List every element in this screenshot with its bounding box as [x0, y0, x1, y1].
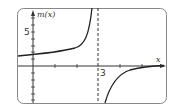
y-axis-label: m(x) — [37, 10, 55, 19]
curve-right-branch — [105, 66, 164, 104]
x-axis-label: x — [156, 55, 161, 64]
x-axis: x 3 — [18, 55, 166, 78]
graph: x 3 m(x) 5 — [0, 0, 180, 111]
x-tick-label-3: 3 — [100, 68, 106, 78]
y-tick-label-5: 5 — [24, 27, 30, 37]
y-axis-arrow-icon — [31, 10, 35, 16]
graph-frame — [18, 9, 167, 104]
y-axis: m(x) 5 — [24, 10, 55, 103]
